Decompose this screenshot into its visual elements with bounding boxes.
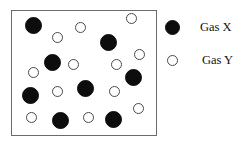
particle-gas-y <box>126 13 137 24</box>
particle-gas-y <box>28 67 39 78</box>
filled-circle-icon <box>165 20 180 35</box>
particle-gas-x <box>44 54 61 71</box>
particle-gas-x <box>25 17 42 34</box>
legend-item-gas-y: Gas Y <box>167 53 233 68</box>
particle-gas-x <box>52 112 69 129</box>
particle-gas-y <box>134 49 145 60</box>
particle-gas-x <box>125 69 142 86</box>
legend-item-gas-x: Gas X <box>165 20 232 35</box>
open-circle-icon <box>167 55 178 66</box>
particle-gas-y <box>111 59 122 70</box>
particle-gas-y <box>52 86 63 97</box>
particle-gas-x <box>22 87 39 104</box>
particle-gas-y <box>83 112 94 123</box>
particle-gas-y <box>109 86 120 97</box>
particle-gas-y <box>26 112 37 123</box>
particle-gas-x <box>77 80 94 97</box>
gas-mixture-diagram: Gas XGas Y <box>0 0 247 146</box>
legend-label: Gas X <box>200 20 232 35</box>
particle-gas-y <box>75 22 86 33</box>
particle-gas-y <box>133 103 144 114</box>
particle-gas-x <box>105 111 122 128</box>
legend-label: Gas Y <box>202 53 233 68</box>
particle-gas-x <box>100 34 117 51</box>
particle-gas-y <box>68 59 79 70</box>
particle-gas-y <box>52 32 63 43</box>
